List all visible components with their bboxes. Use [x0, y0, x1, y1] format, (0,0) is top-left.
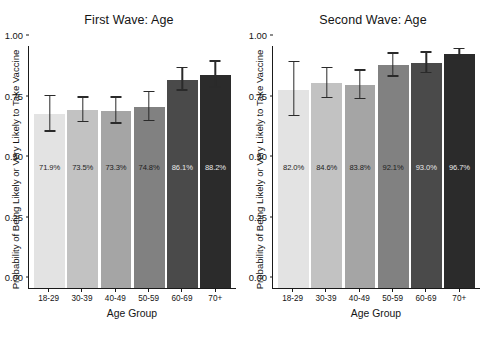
x-axis-tick-mark: [425, 289, 426, 292]
x-axis-tick-label: 70+: [452, 294, 466, 303]
error-bar-cap-upper: [354, 69, 365, 70]
error-bar-cap-lower: [421, 72, 432, 73]
figure-two-panel-bar-charts: First Wave: Age Probability of Being Lik…: [0, 0, 488, 345]
bar-value-label: 88.2%: [200, 163, 231, 172]
error-bar-line: [359, 71, 360, 100]
error-bar-cap-upper: [288, 61, 299, 62]
bar-value-label: 96.7%: [444, 163, 475, 172]
error-bar-cap-upper: [421, 51, 432, 52]
error-bar-cap-lower: [77, 121, 88, 122]
bar-value-label: 73.5%: [67, 163, 98, 172]
y-axis-tick-mark: [26, 216, 29, 217]
bar: [345, 85, 376, 288]
error-bar-line: [293, 62, 294, 116]
bar-group: 73.5%: [67, 46, 98, 288]
y-axis-title: Probability of Being Likely or Very Like…: [252, 46, 268, 292]
x-axis-tick-mark: [459, 289, 460, 292]
error-bar-line: [115, 98, 116, 124]
y-axis-tick: 0.75: [249, 90, 273, 101]
error-bar-cap-lower: [44, 130, 55, 131]
panel-title: First Wave: Age: [0, 13, 244, 27]
bar-value-label: 92.1%: [378, 163, 409, 172]
bar-value-label: 74.8%: [134, 163, 165, 172]
y-axis-tick-label: 0.50: [249, 151, 267, 162]
x-axis-tick-label: 50-59: [382, 294, 403, 303]
bar: [167, 80, 198, 288]
bar: [134, 107, 165, 288]
y-axis-title-text: Probability of Being Likely or Very Like…: [11, 49, 22, 289]
bar-group: 73.3%: [101, 46, 132, 288]
bar: [278, 90, 309, 288]
bar: [200, 75, 231, 288]
error-bar-line: [49, 96, 50, 132]
y-axis-tick-mark: [26, 277, 29, 278]
bar-group: 92.1%: [378, 46, 409, 288]
y-axis-tick: 0.50: [5, 151, 29, 162]
bar-group: 74.8%: [134, 46, 165, 288]
plot-area-wrapper: 0.000.250.500.751.00 82.0%84.6%83.8%92.1…: [272, 46, 480, 334]
y-axis-tick: 0.50: [249, 151, 273, 162]
x-axis-tick: 70+: [200, 289, 231, 303]
y-axis-tick: 0.75: [5, 90, 29, 101]
y-axis-tick-label: 0.00: [5, 272, 23, 283]
y-axis-tick-mark: [26, 95, 29, 96]
y-axis-tick-label: 0.75: [5, 90, 23, 101]
panel-title: Second Wave: Age: [244, 13, 488, 27]
y-axis-tick: 0.00: [249, 272, 273, 283]
plot-area: 0.000.250.500.751.00 71.9%73.5%73.3%74.8…: [28, 46, 236, 288]
x-axis-tick: 40-49: [100, 289, 131, 303]
error-bar-cap-upper: [144, 91, 155, 92]
x-axis-tick-label: 60-69: [172, 294, 193, 303]
bar-group: 83.8%: [345, 46, 376, 288]
bar-value-label: 83.8%: [345, 163, 376, 172]
y-axis-title-text: Probability of Being Likely or Very Like…: [255, 49, 266, 289]
bar-group: 86.1%: [167, 46, 198, 288]
bar-value-label: 86.1%: [167, 163, 198, 172]
plot-area: 0.000.250.500.751.00 82.0%84.6%83.8%92.1…: [272, 46, 480, 288]
error-bar-cap-upper: [110, 96, 121, 97]
y-axis-tick: 0.25: [5, 211, 29, 222]
error-bar-cap-upper: [77, 96, 88, 97]
error-bar-line: [82, 98, 83, 123]
x-axis-tick-mark: [181, 289, 182, 292]
panel-second-wave: Second Wave: Age Probability of Being Li…: [244, 0, 488, 345]
y-axis-tick-label: 0.25: [249, 211, 267, 222]
bar-series: 71.9%73.5%73.3%74.8%86.1%88.2%: [33, 46, 232, 288]
y-axis-tick-mark: [270, 216, 273, 217]
error-bar-cap-upper: [44, 95, 55, 96]
x-axis-tick: 18-29: [33, 289, 64, 303]
bar-value-label: 71.9%: [34, 163, 65, 172]
error-bar-cap-lower: [288, 115, 299, 116]
bar-group: 88.2%: [200, 46, 231, 288]
error-bar-line: [392, 54, 393, 77]
y-axis-tick-mark: [270, 35, 273, 36]
x-axis-tick: 60-69: [411, 289, 442, 303]
error-bar-cap-lower: [321, 97, 332, 98]
y-axis-tick-label: 1.00: [5, 30, 23, 41]
x-axis-tick-mark: [359, 289, 360, 292]
y-axis-tick: 0.25: [249, 211, 273, 222]
y-axis-title: Probability of Being Likely or Very Like…: [8, 46, 24, 292]
error-bar-line: [426, 53, 427, 73]
bar-group: 82.0%: [278, 46, 309, 288]
x-axis-tick-mark: [115, 289, 116, 292]
error-bar-cap-upper: [177, 67, 188, 68]
error-bar-line: [215, 62, 216, 88]
x-axis-tick: 50-59: [377, 289, 408, 303]
x-axis-tick-label: 40-49: [349, 294, 370, 303]
error-bar-cap-lower: [388, 75, 399, 76]
bar-group: 84.6%: [311, 46, 342, 288]
x-axis-tick-label: 50-59: [138, 294, 159, 303]
x-axis-title: Age Group: [28, 308, 236, 319]
x-axis-tick-label: 18-29: [282, 294, 303, 303]
bar-series: 82.0%84.6%83.8%92.1%93.0%96.7%: [277, 46, 476, 288]
y-axis-tick-label: 0.25: [5, 211, 23, 222]
error-bar-line: [148, 92, 149, 121]
error-bar-cap-upper: [321, 67, 332, 68]
bar: [67, 110, 98, 288]
y-axis-tick-label: 1.00: [249, 30, 267, 41]
y-axis-tick: 1.00: [5, 30, 29, 41]
x-axis-tick-label: 60-69: [416, 294, 437, 303]
error-bar-cap-lower: [110, 122, 121, 123]
bar-value-label: 73.3%: [101, 163, 132, 172]
